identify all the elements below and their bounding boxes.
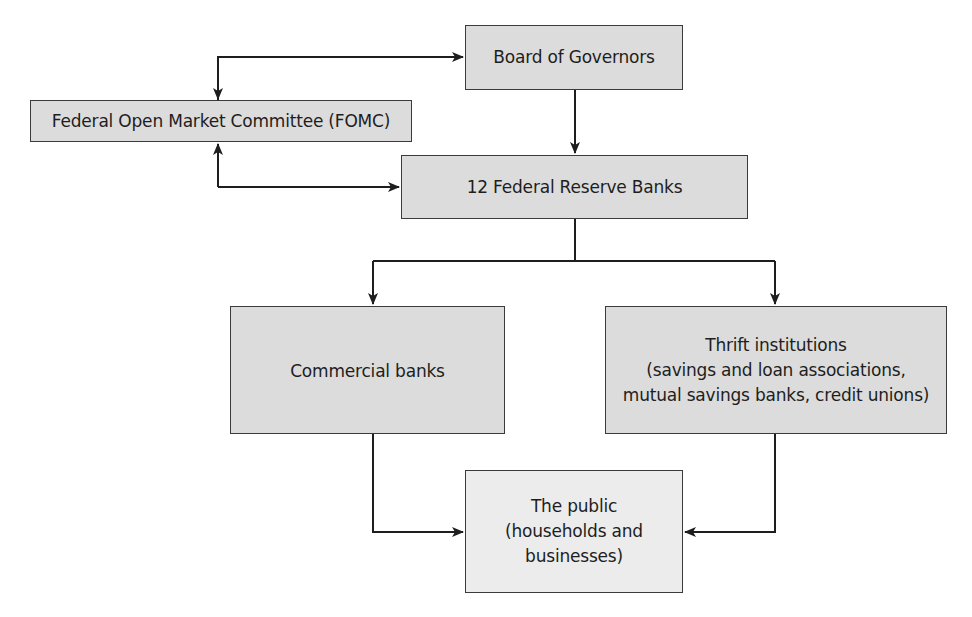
node-federal-reserve-banks: 12 Federal Reserve Banks [401, 155, 748, 219]
node-label-line-1: Thrift institutions [705, 333, 846, 358]
arrow-fomc-board [218, 57, 463, 100]
node-label-line-3: mutual savings banks, credit unions) [623, 383, 929, 408]
node-board-of-governors: Board of Governors [465, 25, 683, 90]
node-label: Board of Governors [493, 45, 654, 70]
arrow-commercial-public [373, 434, 463, 532]
node-label-line-1: The public [531, 494, 617, 519]
node-the-public: The public (households and businesses) [465, 470, 683, 593]
node-label-line-3: businesses) [525, 544, 623, 569]
node-label: 12 Federal Reserve Banks [467, 175, 683, 200]
node-label-line-2: (savings and loan associations, [646, 358, 905, 383]
node-fomc: Federal Open Market Committee (FOMC) [30, 100, 412, 142]
node-label-line-2: (households and [505, 519, 643, 544]
node-commercial-banks: Commercial banks [230, 306, 505, 434]
node-thrift-institutions: Thrift institutions (savings and loan as… [605, 306, 947, 434]
node-label: Federal Open Market Committee (FOMC) [52, 109, 390, 134]
node-label: Commercial banks [290, 359, 445, 384]
arrow-thrift-public [685, 434, 775, 532]
